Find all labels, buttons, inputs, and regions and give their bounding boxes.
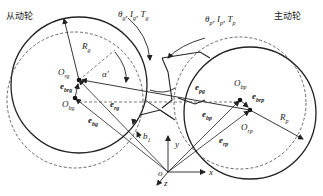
gear-mesh-diagram: 从动轮 主动轮 θg, Ig, Tg θp, Ip, Tp Rg α′ Org … bbox=[0, 0, 323, 196]
driven-bearing-vector-label: ebrg bbox=[60, 82, 72, 93]
pressure-angle-label: α′ bbox=[102, 70, 109, 79]
driven-gear-outer-circle bbox=[11, 17, 147, 153]
backlash-label: b1 bbox=[143, 132, 151, 143]
driven-rotation-center-label: Org bbox=[58, 68, 70, 79]
origin-label: o bbox=[158, 169, 163, 178]
mesh-line-vector-label: epg bbox=[195, 83, 205, 94]
x-axis-label: x bbox=[209, 168, 213, 177]
driving-rotation-center-label: Orp bbox=[241, 123, 253, 134]
y-axis-label: y bbox=[175, 140, 179, 149]
driven-bearing-position-vector-label: ebg bbox=[88, 116, 98, 127]
driven-gear-params: θg, Ig, Tg bbox=[118, 10, 148, 21]
driving-gear-params: θp, Ip, Tp bbox=[205, 15, 235, 26]
driven-gear-title: 从动轮 bbox=[6, 12, 33, 21]
diagram-graphics bbox=[0, 0, 323, 196]
driving-rotation-vector-label: erp bbox=[219, 136, 228, 147]
driven-gear-radius-label: Rg bbox=[82, 42, 91, 53]
driven-rotation-vector-label: erg bbox=[110, 100, 119, 111]
driving-bearing-center-label: Obp bbox=[234, 79, 247, 90]
z-axis-label: z bbox=[164, 179, 168, 188]
driving-gear-radius-label: Rp bbox=[280, 113, 289, 124]
driven-bearing-center-label: Obg bbox=[62, 100, 75, 111]
driving-bearing-vector-label: ebrp bbox=[252, 92, 264, 103]
driving-bearing-position-vector-label: ebp bbox=[202, 110, 212, 121]
driving-gear-title: 主动轮 bbox=[274, 12, 301, 21]
